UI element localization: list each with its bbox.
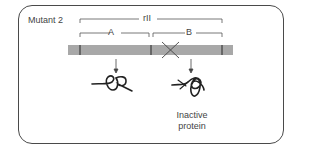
a-bracket (80, 33, 149, 37)
inactive-protein-icon (172, 78, 204, 96)
active-protein-icon (92, 76, 132, 91)
segment-b-label: B (186, 27, 192, 37)
arrow-a-icon (114, 59, 118, 73)
inactive-protein-caption-line2: protein (172, 121, 212, 131)
segment-a-label: A (108, 27, 114, 37)
arrow-b-icon (189, 59, 193, 73)
inactive-protein-caption-line1: Inactive (172, 110, 212, 120)
rii-bracket (80, 19, 222, 23)
gene-label: rII (143, 13, 151, 23)
